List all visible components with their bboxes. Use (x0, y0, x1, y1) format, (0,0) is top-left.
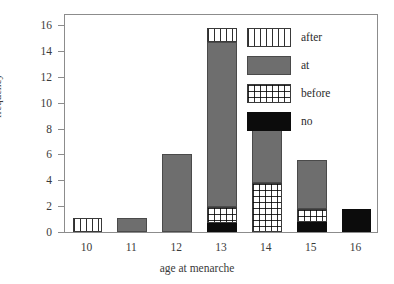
top-clipped-caption (0, 0, 394, 2)
y-tick-label: 12 (26, 71, 52, 83)
y-tick-label: 0 (26, 226, 52, 238)
y-tick-label: 8 (26, 123, 52, 135)
y-axis-title: frequency (0, 0, 3, 96)
y-tick-label: 6 (26, 148, 52, 160)
x-tick-label: 13 (201, 241, 241, 253)
plot-frame: afteratbeforeno (64, 14, 378, 233)
bar-16 (342, 209, 372, 232)
bar-10 (73, 218, 103, 232)
legend-swatch-at (247, 56, 291, 75)
y-tick-label: 4 (26, 174, 52, 186)
bar-segment-12-at (162, 154, 192, 232)
legend-label-at: at (301, 59, 309, 71)
x-tick-label: 11 (111, 241, 151, 253)
bar-segment-13-after (207, 28, 237, 42)
bar-segment-15-no (297, 222, 327, 232)
bar-13 (207, 28, 237, 232)
bar-segment-15-before (297, 209, 327, 222)
bar-segment-15-at (297, 160, 327, 209)
y-tick-label: 14 (26, 45, 52, 57)
bar-segment-13-at (207, 42, 237, 208)
x-tick-label: 14 (246, 241, 286, 253)
legend-swatch-no (247, 112, 291, 131)
y-axis-title-text: frequency (0, 36, 3, 156)
legend-swatch-before (247, 84, 291, 103)
y-tick-label: 16 (26, 19, 52, 31)
chart-root: frequency 0246810121416 afteratbeforeno … (0, 0, 394, 284)
legend-label-before: before (301, 87, 330, 99)
legend-item-after: after (247, 27, 365, 47)
bar-segment-10-after (73, 218, 103, 232)
bar-segment-11-at (117, 218, 147, 232)
x-tick-label: 12 (156, 241, 196, 253)
bar-11 (117, 218, 147, 232)
x-tick-label: 15 (291, 241, 331, 253)
bar-segment-16-no (342, 209, 372, 232)
legend-item-at: at (247, 55, 365, 75)
legend-swatch-after (247, 28, 291, 47)
legend-item-no: no (247, 111, 365, 131)
bar-segment-13-before (207, 207, 237, 223)
bar-segment-14-before (252, 183, 282, 232)
legend-label-no: no (301, 115, 313, 127)
y-tick-label: 10 (26, 97, 52, 109)
bar-segment-13-no (207, 223, 237, 232)
x-tick-label: 10 (66, 241, 106, 253)
bar-12 (162, 154, 192, 232)
legend-label-after: after (301, 31, 322, 43)
x-tick-label: 16 (336, 241, 376, 253)
y-tick-label: 2 (26, 200, 52, 212)
x-axis-title: age at menarche (0, 262, 394, 274)
legend: afteratbeforeno (247, 27, 365, 139)
legend-item-before: before (247, 83, 365, 103)
bar-15 (297, 160, 327, 232)
